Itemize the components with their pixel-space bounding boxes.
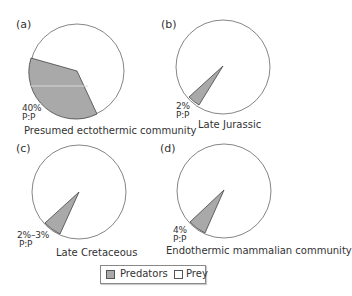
legend-swatch-predators (106, 270, 115, 279)
legend-swatch-prey (174, 270, 183, 279)
legend-label-predators: Predators (120, 268, 168, 279)
pie-b (176, 20, 270, 114)
legend: Predators Prey (100, 265, 206, 284)
caption-b: Late Jurassic (198, 119, 261, 130)
legend-label-prey: Prey (186, 268, 208, 279)
panel-letter-b: (b) (161, 18, 177, 31)
annotation-ratio-c: P:P (19, 240, 32, 249)
caption-c: Late Cretaceous (56, 247, 137, 258)
pie-d (177, 144, 271, 238)
annotation-ratio-a: P:P (22, 113, 35, 122)
annotation-ratio-d: P:P (173, 235, 186, 244)
pie-a (29, 24, 124, 119)
caption-a: Presumed ectothermic community (24, 125, 197, 136)
annotation-ratio-b: P:P (176, 111, 189, 120)
pie-c (32, 145, 126, 239)
caption-d: Endothermic mammalian community (166, 245, 352, 256)
panel-letter-a: (a) (16, 18, 31, 31)
panel-letter-c: (c) (16, 142, 31, 155)
panel-letter-d: (d) (160, 142, 176, 155)
